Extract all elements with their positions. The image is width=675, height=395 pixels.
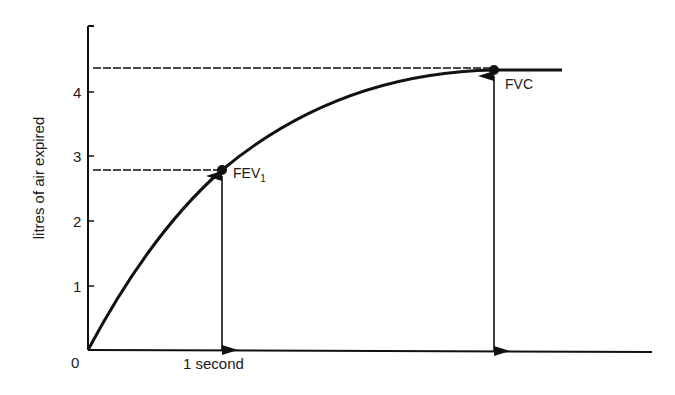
fvc-label: FVC (505, 76, 533, 92)
y-tick-label-3: 3 (73, 148, 81, 165)
fev1-label-sub: 1 (260, 173, 266, 184)
y-tick-labels: 0 1 2 3 4 (71, 84, 81, 371)
y-axis-label: litres of air expired (30, 117, 47, 240)
y-tick-label-0: 0 (71, 354, 79, 371)
expiration-curve (88, 70, 562, 350)
fev1-label-main: FEV (233, 165, 261, 181)
spirometry-chart: 0 1 2 3 4 litres of air expired 1 second… (0, 0, 675, 395)
axes (88, 26, 652, 352)
x-tick-label-1-second: 1 second (183, 355, 244, 372)
y-tick-label-2: 2 (73, 213, 81, 230)
fev1-label: FEV1 (233, 165, 266, 184)
fvc-point (489, 65, 499, 75)
x-axis (88, 350, 652, 352)
y-tick-label-1: 1 (73, 278, 81, 295)
y-tick-label-4: 4 (73, 84, 81, 101)
fev1-point (217, 165, 227, 175)
